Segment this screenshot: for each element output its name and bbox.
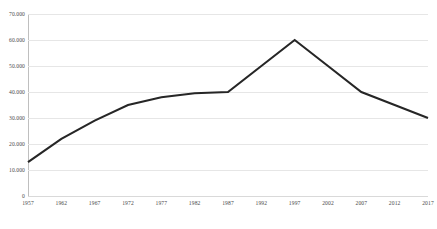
y-axis-tick-labels: 010.00020.00030.00040.00050.00060.00070.… [0,14,25,196]
x-axis-tick-label: 1982 [189,200,201,206]
x-axis-tick-label: 1977 [156,200,168,206]
x-axis-tick-label: 2002 [322,200,334,206]
y-axis-tick-label: 40.000 [9,89,25,95]
y-axis-tick-label: 60.000 [9,37,25,43]
y-axis-tick-label: 10.000 [9,167,25,173]
y-axis-tick-label: 70.000 [9,11,25,17]
y-axis-tick-label: 20.000 [9,141,25,147]
series-line-chart [28,14,428,196]
series-line [28,40,428,162]
x-axis-tick-label: 2017 [422,200,434,206]
x-axis-tick-label: 1997 [289,200,301,206]
x-axis-tick-label: 2012 [389,200,401,206]
x-axis-tick-label: 1972 [122,200,134,206]
y-axis-tick-label: 0 [22,193,25,199]
x-axis-tick-label: 1987 [222,200,234,206]
y-axis-tick-label: 50.000 [9,63,25,69]
x-axis-tick-label: 1967 [89,200,101,206]
x-axis-tick-labels: 1957196219671972197719821987199219972002… [28,200,428,216]
x-axis-tick-label: 2007 [356,200,368,206]
x-axis-tick-label: 1957 [22,200,34,206]
x-axis-tick-label: 1962 [56,200,68,206]
x-axis-tick-label: 1992 [256,200,268,206]
plot-area [28,14,428,196]
y-axis-tick-label: 30.000 [9,115,25,121]
gridline [28,196,428,197]
line-chart: 010.00020.00030.00040.00050.00060.00070.… [0,0,437,229]
